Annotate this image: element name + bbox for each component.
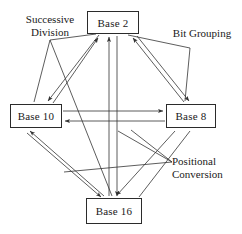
edge-base10-to-base16 — [27, 133, 101, 197]
node-base-2-label: Base 2 — [98, 17, 129, 29]
leader-positional-2 — [118, 131, 172, 162]
base-conversion-diagram: Base 2 Base 10 Base 8 Base 16 Successive… — [0, 0, 242, 234]
leader-bitgrouping-2 — [185, 48, 190, 101]
annotation-successive-division: Successive Division — [8, 13, 92, 38]
edge-base10-to-base2 — [53, 38, 98, 103]
node-base-10-label: Base 10 — [18, 110, 55, 122]
annotation-bit-grouping: Bit Grouping — [166, 27, 238, 40]
edge-base8-to-base16 — [117, 131, 175, 195]
edge-base8-to-base2 — [133, 38, 184, 102]
node-base-8-label: Base 8 — [176, 110, 207, 122]
edge-base2-to-base10 — [48, 35, 99, 101]
node-base-16-label: Base 16 — [96, 205, 133, 217]
edge-base16-to-base10 — [30, 131, 104, 196]
node-base-10[interactable]: Base 10 — [10, 104, 62, 128]
node-base-16[interactable]: Base 16 — [86, 198, 142, 224]
leader-positional-3 — [64, 162, 172, 172]
annotation-positional-conversion: Positional Conversion — [172, 155, 242, 180]
node-base-2[interactable]: Base 2 — [87, 11, 139, 34]
node-base-8[interactable]: Base 8 — [166, 104, 216, 128]
leader-successive-3 — [34, 40, 50, 102]
